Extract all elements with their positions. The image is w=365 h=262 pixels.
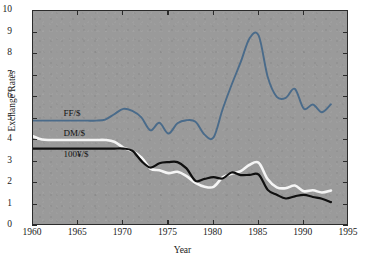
y-tick	[32, 32, 37, 33]
x-axis-title: Year	[0, 245, 365, 255]
y-tick-right	[343, 53, 348, 54]
series-label-100: 100¥/$	[64, 150, 89, 159]
x-tick	[303, 220, 304, 225]
x-tick-label: 1995	[328, 228, 365, 238]
y-tick-right	[343, 75, 348, 76]
y-tick-right	[343, 32, 348, 33]
x-tick-top	[213, 10, 214, 15]
y-tick	[32, 182, 37, 183]
y-tick-right	[343, 225, 348, 226]
series-line-ff	[33, 32, 331, 139]
y-tick-label: 2	[0, 177, 12, 187]
x-tick	[77, 220, 78, 225]
exchange-rates-chart: 012345678910 196019651970197519801985199…	[0, 0, 365, 262]
y-tick	[32, 118, 37, 119]
x-tick-top	[77, 10, 78, 15]
y-tick-label: 0	[0, 220, 12, 230]
y-tick-right	[343, 10, 348, 11]
y-tick-label: 9	[0, 27, 12, 37]
x-tick	[213, 220, 214, 225]
x-tick-label: 1985	[238, 228, 278, 238]
x-tick	[167, 220, 168, 225]
x-tick-label: 1960	[12, 228, 52, 238]
x-tick-top	[167, 10, 168, 15]
x-tick-top	[303, 10, 304, 15]
y-tick	[32, 96, 37, 97]
series-label-dm: DM/$	[64, 129, 86, 138]
y-axis-title: Exchange Rates	[7, 51, 17, 151]
x-tick-label: 1975	[147, 228, 187, 238]
series-label-ff: FF/$	[64, 109, 81, 118]
y-tick	[32, 139, 37, 140]
x-tick-top	[122, 10, 123, 15]
y-tick-right	[343, 139, 348, 140]
y-tick	[32, 225, 37, 226]
x-tick	[258, 220, 259, 225]
x-tick-label: 1980	[193, 228, 233, 238]
x-tick-top	[258, 10, 259, 15]
x-tick-label: 1970	[102, 228, 142, 238]
y-tick	[32, 53, 37, 54]
y-tick	[32, 75, 37, 76]
y-tick-right	[343, 96, 348, 97]
y-tick-label: 1	[0, 199, 12, 209]
y-tick-label: 3	[0, 156, 12, 166]
y-tick-right	[343, 161, 348, 162]
y-tick	[32, 10, 37, 11]
x-tick	[122, 220, 123, 225]
y-tick-right	[343, 204, 348, 205]
x-tick-label: 1990	[283, 228, 323, 238]
y-tick-right	[343, 182, 348, 183]
y-tick-label: 10	[0, 5, 12, 15]
y-tick-right	[343, 118, 348, 119]
y-tick	[32, 204, 37, 205]
x-tick-label: 1965	[57, 228, 97, 238]
y-tick	[32, 161, 37, 162]
